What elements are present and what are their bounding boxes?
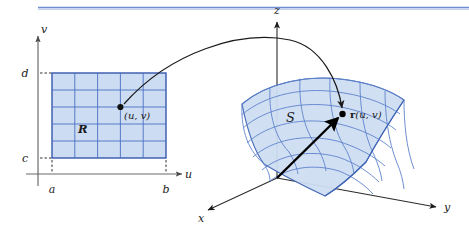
- surface-patch-fill: [242, 78, 404, 196]
- z-axis-label: z: [273, 4, 280, 17]
- y-axis-label: y: [443, 201, 451, 214]
- parametric-surface-figure: v u d c a b R (u, v) z x y: [0, 0, 469, 227]
- uv-point-marker: [117, 104, 123, 110]
- position-vector-label-args: (u, v): [355, 109, 381, 120]
- x-axis-line: [208, 178, 277, 210]
- tick-label-b: b: [162, 183, 169, 196]
- region-label-R: R: [77, 122, 88, 136]
- parametric-surface-group: S: [242, 78, 414, 197]
- x-axis-label: x: [198, 212, 205, 225]
- surface-label-S: S: [286, 110, 295, 125]
- tick-label-a: a: [49, 183, 56, 196]
- figure-canvas: v u d c a b R (u, v) z x y: [0, 0, 469, 227]
- tick-label-d: d: [21, 67, 28, 80]
- uv-plane-group: v u d c a b R (u, v): [21, 23, 192, 196]
- u-axis-label: u: [185, 168, 192, 181]
- position-vector-label: r(u, v): [350, 109, 382, 120]
- uv-point-label: (u, v): [124, 110, 150, 121]
- surface-point-marker: [339, 111, 345, 117]
- tick-label-c: c: [22, 152, 28, 165]
- v-axis-label: v: [41, 23, 48, 36]
